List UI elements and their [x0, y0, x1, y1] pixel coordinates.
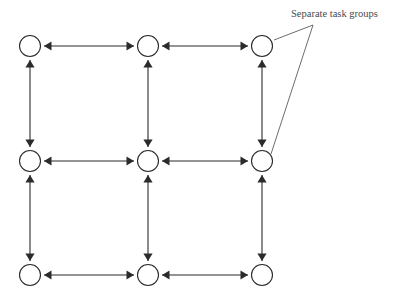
arrowhead-reverse — [25, 175, 34, 183]
edge-e-v-c2-r1-r2 — [257, 175, 266, 261]
annotation-label-separate-task-groups: Separate task groups — [291, 8, 378, 19]
edge-e-v-c2-r0-r1 — [257, 60, 266, 147]
arrowhead-reverse — [44, 270, 52, 279]
arrowhead-reverse — [143, 175, 152, 183]
arrowhead-reverse — [162, 156, 170, 165]
arrowhead-forward — [25, 254, 34, 262]
arrowhead-reverse — [162, 270, 170, 279]
arrowhead-reverse — [25, 60, 34, 68]
edge-e-v-c1-r0-r1 — [143, 60, 152, 147]
node-n-r2-c1[interactable] — [138, 265, 159, 286]
arrowhead-forward — [143, 254, 152, 262]
node-n-r1-c0[interactable] — [20, 151, 41, 172]
edge-e-h-r0-c0-c1 — [44, 41, 134, 50]
arrowhead-forward — [25, 140, 34, 148]
arrowhead-forward — [241, 270, 249, 279]
diagram-canvas: Separate task groups — [0, 0, 410, 299]
arrowhead-reverse — [257, 175, 266, 183]
edge-e-h-r1-c0-c1 — [44, 156, 134, 165]
arrowhead-forward — [127, 41, 135, 50]
arrowhead-forward — [241, 156, 249, 165]
edge-e-h-r2-c0-c1 — [44, 270, 134, 279]
node-n-r1-c2[interactable] — [252, 151, 273, 172]
annotation-leader-line-2 — [271, 25, 313, 154]
edge-e-h-r1-c1-c2 — [162, 156, 248, 165]
arrowhead-forward — [257, 254, 266, 262]
node-n-r2-c0[interactable] — [20, 265, 41, 286]
arrowhead-forward — [143, 140, 152, 148]
edge-e-v-c0-r1-r2 — [25, 175, 34, 261]
edge-e-v-c1-r1-r2 — [143, 175, 152, 261]
node-n-r2-c2[interactable] — [252, 265, 273, 286]
arrowhead-reverse — [257, 60, 266, 68]
arrowhead-forward — [241, 41, 249, 50]
edge-e-h-r0-c1-c2 — [162, 41, 248, 50]
arrowhead-forward — [127, 156, 135, 165]
edge-e-h-r2-c1-c2 — [162, 270, 248, 279]
annotation-leader-line-1 — [274, 25, 313, 40]
arrowhead-reverse — [44, 156, 52, 165]
node-n-r0-c1[interactable] — [138, 36, 159, 57]
node-n-r1-c1[interactable] — [138, 151, 159, 172]
node-n-r0-c0[interactable] — [20, 36, 41, 57]
arrowhead-forward — [127, 270, 135, 279]
grid-graph-diagram: Separate task groups — [0, 0, 410, 299]
edge-e-v-c0-r0-r1 — [25, 60, 34, 147]
arrowhead-forward — [257, 140, 266, 148]
arrowhead-reverse — [162, 41, 170, 50]
node-n-r0-c2[interactable] — [252, 36, 273, 57]
arrowhead-reverse — [143, 60, 152, 68]
arrowhead-reverse — [44, 41, 52, 50]
annotations-layer: Separate task groups — [271, 8, 378, 154]
